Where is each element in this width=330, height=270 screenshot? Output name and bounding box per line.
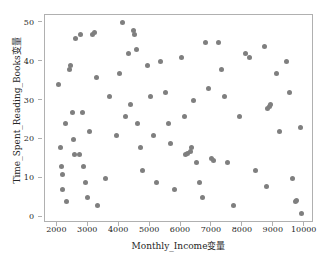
y-tick-mark [38,177,42,178]
y-tick-mark [38,138,42,139]
data-point [71,137,76,142]
data-point [58,145,63,150]
data-point [264,184,269,189]
data-point [237,114,242,119]
y-axis-label: Time_Spent_Reading_Books变量 [10,11,23,211]
data-point [166,121,171,126]
y-tick-label: 50 [24,17,34,26]
data-point [151,133,156,138]
data-point [231,203,236,208]
data-point [103,176,108,181]
plot-area [44,14,313,222]
x-tick-mark [272,222,273,226]
data-point [70,110,75,115]
data-point [222,94,227,99]
data-point [94,75,99,80]
data-point [298,125,303,130]
data-point [219,67,224,72]
data-point [253,168,258,173]
data-point [290,176,295,181]
data-point [73,36,78,41]
y-tick-label: 40 [24,56,34,65]
data-point [64,199,69,204]
data-point [168,141,173,146]
data-point [132,32,137,37]
data-point [225,160,230,165]
x-tick-label: 6000 [170,225,190,234]
data-point [126,51,131,56]
data-point [268,102,273,107]
data-point [179,55,184,60]
data-point [172,187,177,192]
data-point [123,114,128,119]
x-tick-mark [149,222,150,226]
data-point [158,59,163,64]
data-point [287,90,292,95]
data-point [95,203,100,208]
data-point [197,180,202,185]
data-point [163,90,168,95]
data-point [140,168,145,173]
data-point [194,160,199,165]
data-point [114,133,119,138]
x-tick-mark [180,222,181,226]
data-point [191,98,196,103]
x-tick-mark [56,222,57,226]
data-point [60,172,65,177]
y-tick-mark [38,216,42,217]
data-point [145,63,150,68]
data-point [78,32,83,37]
y-tick-mark [38,21,42,22]
data-point [138,145,143,150]
data-point [299,211,304,216]
data-point [59,164,64,169]
data-point [77,152,82,157]
data-point [211,158,216,163]
data-point [60,187,65,192]
x-tick-label: 9000 [263,225,283,234]
data-point [274,71,279,76]
y-tick-mark [38,99,42,100]
data-point [182,114,187,119]
data-point [262,44,267,49]
x-tick-label: 5000 [139,225,159,234]
data-point [206,86,211,91]
x-tick-mark [87,222,88,226]
scatter-plot-figure: 01020304050 2000300040005000600070008000… [0,0,330,270]
data-point [189,145,194,150]
data-point [134,47,139,52]
x-tick-label: 7000 [201,225,221,234]
x-tick-mark [210,222,211,226]
x-tick-label: 4000 [108,225,128,234]
data-point [80,110,85,115]
x-tick-label: 10000 [291,225,316,234]
data-point [117,71,122,76]
y-tick-label: 10 [24,173,34,182]
y-tick-label: 0 [29,212,34,221]
data-point [277,129,282,134]
x-tick-label: 8000 [232,225,252,234]
data-point [203,40,208,45]
data-point [284,59,289,64]
data-point [294,198,299,203]
y-tick-label: 20 [24,134,34,143]
data-point [154,180,159,185]
x-tick-mark [118,222,119,226]
y-tick-mark [38,60,42,61]
x-tick-label: 3000 [77,225,97,234]
data-point [107,94,112,99]
data-point [135,121,140,126]
data-point [83,180,88,185]
data-point [148,94,153,99]
data-point [87,129,92,134]
data-point [56,82,61,87]
x-tick-label: 2000 [46,225,66,234]
data-point [200,195,205,200]
data-point [247,55,252,60]
data-point [128,102,133,107]
data-point [63,121,68,126]
x-tick-mark [241,222,242,226]
data-point [81,164,86,169]
x-axis-label: Monthly_Income变量 [44,239,313,252]
y-tick-label: 30 [24,95,34,104]
